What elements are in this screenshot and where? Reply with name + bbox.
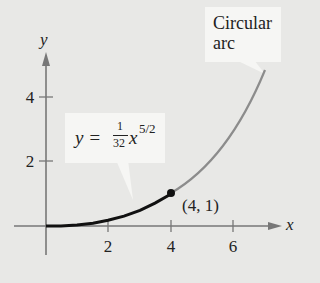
y-tick-label-2: 2 [26,152,35,171]
y-axis-arrow-icon [42,52,50,66]
x-tick-label-6: 6 [229,237,238,256]
circular-arc-curve [171,70,265,193]
eq-y: y = [75,127,101,149]
arc-callout: Circular arc [205,7,281,62]
x-axis-arrow-icon [268,222,282,230]
arc-callout-line1: Circular [213,13,281,33]
point-4-1 [167,189,175,197]
eq-callout-pointer [116,160,133,200]
x-tick-label-2: 2 [104,237,113,256]
eq-exponent: 5/2 [139,121,156,137]
y-axis-label: y [38,30,48,49]
x-tick-label-4: 4 [167,237,176,256]
equation-callout: y = 1 32 x 5/2 [65,113,165,163]
eq-x: x [129,127,137,149]
arc-callout-pointer [236,60,265,74]
eq-denominator: 32 [113,136,125,151]
eq-numerator: 1 [117,119,123,134]
x-axis-label: x [285,215,294,234]
y-tick-label-4: 4 [26,88,35,107]
arc-callout-line2: arc [213,33,281,53]
power-curve [46,194,171,226]
point-label: (4, 1) [182,196,219,215]
